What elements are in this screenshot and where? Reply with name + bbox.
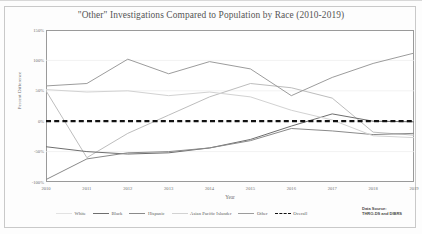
series-line	[46, 53, 414, 96]
y-axis-label: Percent Difference	[17, 48, 22, 134]
y-tick-label: 50%	[20, 88, 44, 93]
x-tick-label: 2010	[29, 186, 63, 191]
legend-item[interactable]: White	[56, 211, 86, 216]
legend-swatch-icon	[129, 213, 145, 214]
legend-label: White	[75, 211, 86, 216]
x-tick-label: 2019	[397, 186, 422, 191]
x-tick-label: 2017	[315, 186, 349, 191]
legend-label: Other	[257, 211, 268, 216]
y-tick-label: 0%	[20, 119, 44, 124]
legend-label: Hispanic	[148, 211, 165, 216]
legend-swatch-icon	[275, 213, 291, 214]
chart-page: "Other" Investigations Compared to Popul…	[0, 0, 422, 234]
legend-item[interactable]: Overall	[275, 211, 308, 216]
y-axis-tick-labels: 150%100%50%0%-50%-100%	[18, 0, 44, 234]
data-source-note: Data Source: THRO-DS and DIBRS	[362, 206, 420, 216]
legend-swatch-icon	[93, 213, 109, 214]
x-axis-label: Year	[46, 194, 414, 200]
chart-title: "Other" Investigations Compared to Popul…	[0, 10, 422, 20]
legend-item[interactable]: Hispanic	[129, 211, 164, 216]
plot-svg	[46, 30, 414, 182]
x-tick-label: 2018	[356, 186, 390, 191]
x-tick-label: 2011	[70, 186, 104, 191]
legend-item[interactable]: Other	[238, 211, 267, 216]
y-tick-label: -100%	[20, 180, 44, 185]
legend-label: Asian Pacific Islander	[190, 211, 231, 216]
legend-label: Overall	[293, 211, 307, 216]
legend-item[interactable]: Asian Pacific Islander	[172, 211, 232, 216]
plot-wrapper	[46, 30, 414, 182]
x-tick-label: 2013	[152, 186, 186, 191]
y-tick-label: -50%	[20, 149, 44, 154]
data-source-line-2: THRO-DS and DIBRS	[362, 211, 420, 216]
legend-item[interactable]: Black	[93, 211, 122, 216]
legend-swatch-icon	[238, 213, 254, 214]
page-top-rule	[0, 0, 422, 1]
x-tick-label: 2014	[193, 186, 227, 191]
x-tick-label: 2012	[111, 186, 145, 191]
y-tick-label: 150%	[20, 28, 44, 33]
series-line	[46, 128, 414, 179]
x-tick-label: 2015	[233, 186, 267, 191]
x-axis-tick-labels: 2010201120122013201420152016201720182019	[46, 186, 414, 194]
x-tick-label: 2016	[274, 186, 308, 191]
legend-swatch-icon	[56, 213, 72, 214]
chart-legend: WhiteBlackHispanicAsian Pacific Islander…	[56, 207, 356, 219]
y-tick-label: 100%	[20, 58, 44, 63]
legend-label: Black	[111, 211, 122, 216]
legend-swatch-icon	[172, 213, 188, 214]
series-line	[46, 90, 414, 138]
